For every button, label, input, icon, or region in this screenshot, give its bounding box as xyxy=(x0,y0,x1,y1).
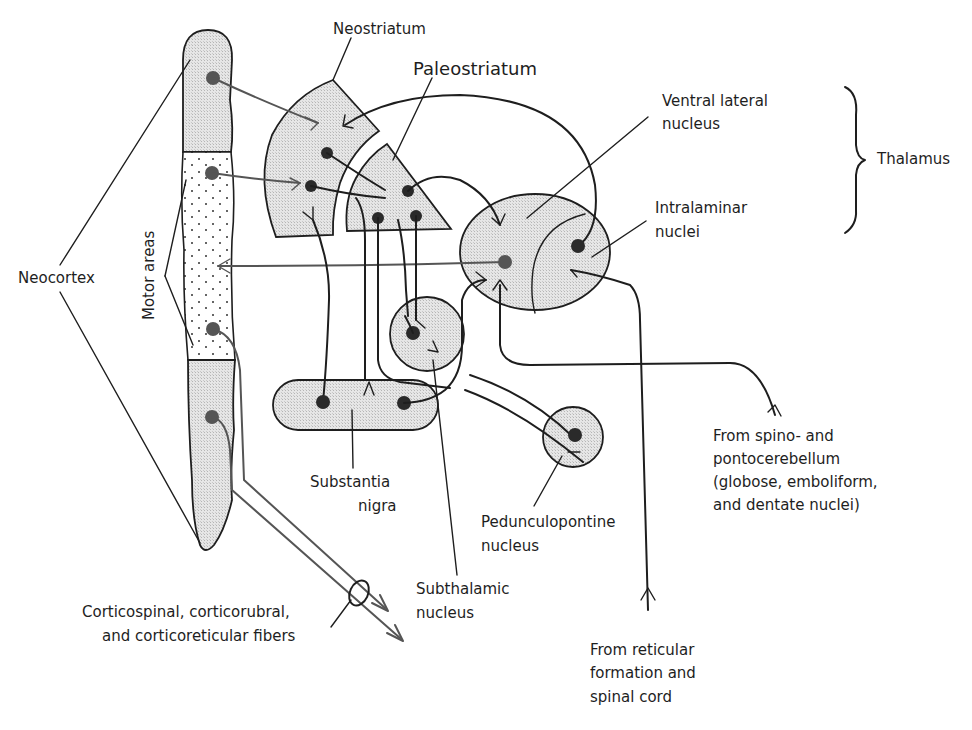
label-pedunculopontine-1: Pedunculopontine xyxy=(481,513,615,531)
label-ventral-lateral-1: Ventral lateral xyxy=(662,92,768,110)
intralaminar-cell xyxy=(571,239,585,253)
thalamus-brace xyxy=(845,87,865,233)
basal-ganglia-diagram: Neostriatum Paleostriatum Ventral latera… xyxy=(0,0,972,730)
neocortex-lower-region xyxy=(188,360,235,550)
substantia-nigra-shape xyxy=(273,380,438,430)
label-subthalamic-1: Subthalamic xyxy=(416,580,510,598)
paleostriatum-shape xyxy=(346,144,451,231)
label-fibers-2: and corticoreticular fibers xyxy=(102,627,296,645)
ventral-lateral-cell xyxy=(498,255,512,269)
label-cerebellum-1: From spino- and xyxy=(713,427,834,445)
label-reticular-2: formation and xyxy=(590,664,696,682)
fiber-bundle-marker xyxy=(345,577,372,608)
label-intralaminar-2: nuclei xyxy=(655,223,700,241)
label-thalamus: Thalamus xyxy=(876,150,950,168)
label-reticular-3: spinal cord xyxy=(590,688,672,706)
pedunculopontine-cell xyxy=(568,428,582,442)
label-cerebellum-4: and dentate nuclei) xyxy=(713,496,860,514)
label-neocortex: Neocortex xyxy=(18,269,95,287)
neocortex-upper-region xyxy=(183,30,232,152)
label-substantia-1: Substantia xyxy=(310,473,390,491)
label-neostriatum: Neostriatum xyxy=(333,20,426,38)
label-paleostriatum: Paleostriatum xyxy=(413,58,537,79)
label-substantia-2: nigra xyxy=(358,497,397,515)
label-motor-areas: Motor areas xyxy=(140,230,158,320)
label-reticular-1: From reticular xyxy=(590,641,695,659)
label-ventral-lateral-2: nucleus xyxy=(662,115,720,133)
label-intralaminar-1: Intralaminar xyxy=(655,199,748,217)
label-subthalamic-2: nucleus xyxy=(416,604,474,622)
label-cerebellum-3: (globose, emboliform, xyxy=(713,473,878,491)
neocortex-strip xyxy=(182,30,235,550)
substantia-nigra-cell-1 xyxy=(316,395,330,409)
label-cerebellum-2: pontocerebellum xyxy=(713,450,840,468)
label-pedunculopontine-2: nucleus xyxy=(481,537,539,555)
subthalamic-nucleus-shape xyxy=(390,297,464,371)
label-fibers-1: Corticospinal, corticorubral, xyxy=(82,603,290,621)
